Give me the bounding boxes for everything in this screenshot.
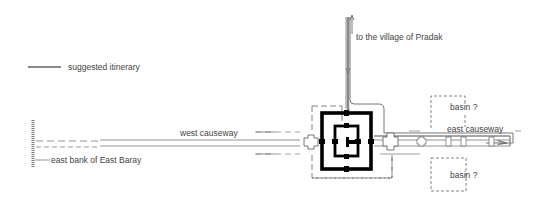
site-plan-map: suggested itinerary east bank of East Ba… [0,0,549,203]
north-route-label: to the village of Pradak [356,32,443,42]
temple-structure [319,110,374,172]
east-bank-label: east bank of East Baray [51,155,142,165]
basin-south-label: basin ? [450,170,478,180]
legend-label: suggested itinerary [68,62,141,72]
west-causeway-label: west causeway [179,128,238,138]
east-causeway-label: east causeway [447,124,504,134]
legend: suggested itinerary [28,62,141,72]
basin-north-label: basin ? [450,102,478,112]
east-causeway: east causeway [374,124,521,154]
basin-south: basin ? [431,158,478,191]
west-causeway: west causeway [36,128,318,154]
east-bank-of-baray: east bank of East Baray [33,120,142,168]
